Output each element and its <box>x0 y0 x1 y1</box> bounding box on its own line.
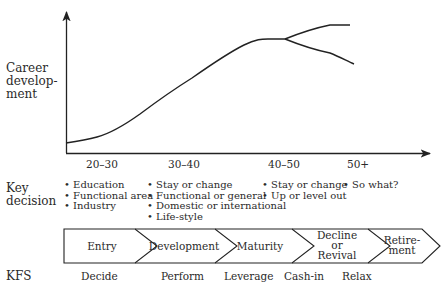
key-decision-label-line: decision <box>6 195 56 208</box>
age-range-label: 30–40 <box>168 159 200 171</box>
key-decision-item: • Domestic or international <box>147 201 286 212</box>
stage-label: Entry <box>72 241 132 251</box>
key-decision-column: • Education • Functional area • Industry <box>64 180 153 212</box>
kfs-item: Cash-in <box>284 271 324 283</box>
key-decision-label: Key decision <box>6 182 56 208</box>
age-range-label: 40–50 <box>268 159 300 171</box>
key-decision-item: • Up or level out <box>262 191 347 202</box>
stage-development: Development <box>145 241 223 251</box>
career-curve <box>66 39 285 143</box>
key-decision-item: • Life-style <box>147 212 286 223</box>
stage-label: Development <box>145 241 223 251</box>
key-decision-item: • Stay or change <box>262 180 347 191</box>
stage-label: Revival <box>300 250 374 260</box>
stage-entry: Entry <box>72 241 132 251</box>
key-decision-column: • Stay or change • Up or level out <box>262 180 347 201</box>
stage-label: ment <box>376 245 428 255</box>
y-axis-label-line: ment <box>6 88 57 101</box>
key-decision-item: • So what? <box>343 180 398 191</box>
kfs-item: Perform <box>161 271 204 283</box>
age-range-label: 20–30 <box>86 159 118 171</box>
kfs-item: Relax <box>342 271 372 283</box>
kfs-item: Decide <box>81 271 118 283</box>
stage-label: Maturity <box>224 241 296 251</box>
decline-branch <box>285 39 354 64</box>
stage-maturity: Maturity <box>224 241 296 251</box>
stage-retirement: Retire- ment <box>376 235 428 255</box>
key-decision-item: • Education <box>64 180 153 191</box>
key-decision-item: • Industry <box>64 201 153 212</box>
key-decision-column: • So what? <box>343 180 398 191</box>
y-axis-label: Career develop- ment <box>6 62 57 101</box>
stage-decline-or-revival: Decline or Revival <box>300 230 374 260</box>
kfs-item: Leverage <box>224 271 274 283</box>
age-range-label: 50+ <box>347 159 369 171</box>
revival-branch <box>285 25 350 39</box>
kfs-label: KFS <box>6 270 32 283</box>
